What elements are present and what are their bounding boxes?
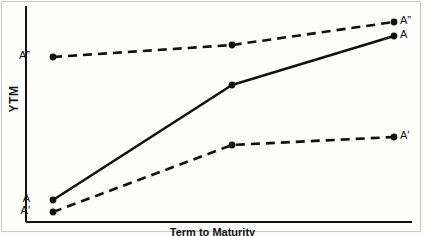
data-point-marker (50, 54, 57, 61)
y-axis-label: YTM (7, 77, 21, 121)
data-point-marker (50, 197, 57, 204)
point-label-right-a: A (400, 28, 407, 40)
series-line-a-prime (53, 137, 394, 212)
data-point-markers (50, 19, 398, 216)
data-point-marker (229, 42, 236, 49)
data-point-marker (391, 33, 398, 40)
data-point-marker (229, 142, 236, 149)
point-label-left-a-prime: A′ (0, 204, 30, 216)
series-line-a (53, 36, 394, 200)
data-point-marker (391, 19, 398, 26)
yield-curve-figure: YTM Term to Maturity A” A A′ A” A A′ (0, 0, 425, 236)
point-label-left-a-double-prime: A” (0, 49, 30, 61)
point-label-right-a-prime: A′ (400, 129, 409, 141)
x-axis-label: Term to Maturity (0, 226, 425, 236)
data-point-marker (50, 209, 57, 216)
point-label-right-a-double-prime: A” (400, 14, 411, 26)
chart-plot-area (0, 0, 425, 236)
data-point-marker (229, 82, 236, 89)
point-label-left-a: A (0, 192, 30, 204)
data-point-marker (391, 134, 398, 141)
